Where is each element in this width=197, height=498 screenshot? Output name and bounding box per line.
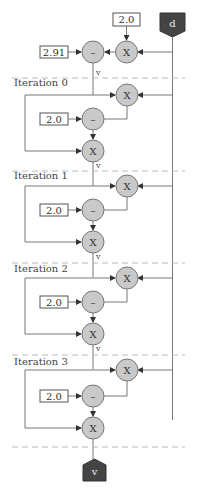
svg-text:X: X — [123, 181, 131, 192]
svg-text:–: – — [91, 297, 96, 308]
svg-text:X: X — [123, 47, 131, 58]
svg-text:v: v — [95, 344, 101, 353]
svg-text:v: v — [95, 252, 101, 261]
iteration-diagram: d 2.0 X – 2.91 v Iteration 0 — [0, 0, 197, 498]
iteration-label: Iteration 0 — [14, 77, 68, 88]
init-sub-node: – — [82, 41, 104, 63]
svg-text:X: X — [123, 273, 131, 284]
svg-text:2.0: 2.0 — [119, 14, 135, 25]
svg-text:–: – — [91, 114, 96, 125]
iteration-label: Iteration 1 — [14, 170, 68, 181]
svg-text:2.91: 2.91 — [43, 47, 65, 58]
iteration-3: Iteration 3 X – 2.0 X — [14, 356, 173, 459]
init-sub-constant-box: 2.91 — [40, 46, 68, 58]
iteration-2: Iteration 2 X – 2.0 X v — [14, 263, 173, 369]
input-node-label: d — [169, 18, 176, 29]
svg-text:2.0: 2.0 — [46, 205, 62, 216]
init-edge-label: v — [95, 68, 101, 77]
svg-text:X: X — [89, 329, 97, 340]
svg-text:2.0: 2.0 — [46, 114, 62, 125]
svg-text:X: X — [89, 146, 97, 157]
svg-text:–: – — [91, 205, 96, 216]
svg-text:–: – — [91, 391, 96, 402]
iteration-label: Iteration 3 — [14, 356, 68, 367]
svg-text:2.0: 2.0 — [46, 391, 62, 402]
input-node-d: d — [160, 13, 185, 37]
svg-text:X: X — [89, 237, 97, 248]
init-mul-node: X — [116, 41, 138, 63]
output-node-v: v — [83, 459, 106, 481]
svg-text:X: X — [123, 365, 131, 376]
svg-text:v: v — [95, 161, 101, 170]
svg-text:X: X — [123, 90, 131, 101]
output-node-label: v — [91, 466, 98, 477]
svg-text:X: X — [89, 423, 97, 434]
iteration-1: Iteration 1 X – 2.0 X v — [14, 170, 173, 277]
svg-text:2.0: 2.0 — [46, 297, 62, 308]
iteration-label: Iteration 2 — [14, 263, 68, 274]
init-mul-constant-box: 2.0 — [113, 13, 140, 26]
svg-text:–: – — [91, 47, 96, 58]
